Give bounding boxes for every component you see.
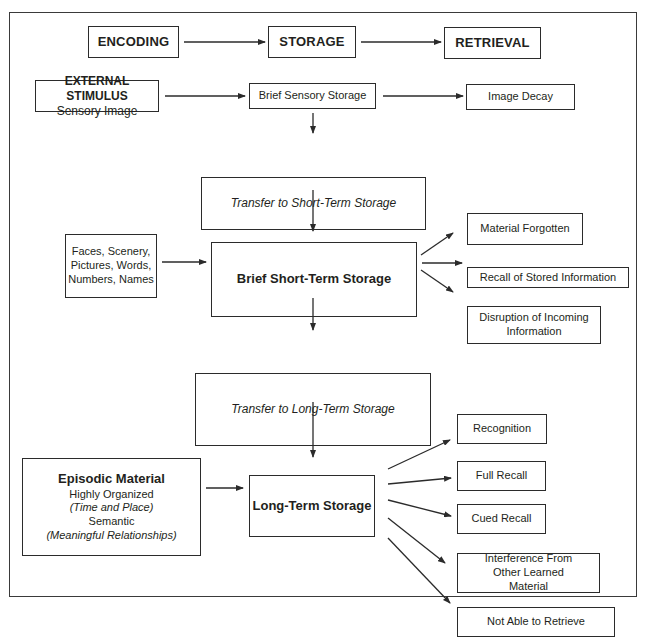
interference-box: Interference From Other Learned Material bbox=[457, 553, 600, 593]
image-decay-box: Image Decay bbox=[466, 84, 575, 110]
episodic-line-1: Highly Organized bbox=[69, 488, 153, 502]
brief-short-term-storage-box: Brief Short-Term Storage bbox=[211, 242, 417, 317]
recognition-label: Recognition bbox=[473, 422, 531, 436]
recognition-box: Recognition bbox=[457, 414, 547, 444]
cued-recall-box: Cued Recall bbox=[457, 504, 546, 534]
material-forgotten-box: Material Forgotten bbox=[467, 213, 583, 245]
episodic-line-4: (Meaningful Relationships) bbox=[46, 529, 176, 543]
retrieval-label: RETRIEVAL bbox=[455, 35, 530, 51]
brief-short-term-storage-label: Brief Short-Term Storage bbox=[237, 271, 391, 287]
recall-stored-info-label: Recall of Stored Information bbox=[480, 271, 616, 285]
transfer-long-term-box: Transfer to Long-Term Storage bbox=[195, 373, 431, 446]
external-stimulus-subtitle: Sensory Image bbox=[57, 104, 138, 119]
transfer-short-term-label: Transfer to Short-Term Storage bbox=[231, 196, 396, 211]
encoding-box: ENCODING bbox=[88, 26, 179, 58]
episodic-material-box: Episodic Material Highly Organized (Time… bbox=[22, 458, 201, 556]
external-stimulus-box: EXTERNAL STIMULUS Sensory Image bbox=[35, 80, 159, 112]
inputs-line-2: Pictures, Words, bbox=[71, 259, 152, 273]
image-decay-label: Image Decay bbox=[488, 90, 553, 104]
external-stimulus-title: EXTERNAL STIMULUS bbox=[36, 74, 158, 104]
retrieval-box: RETRIEVAL bbox=[444, 27, 541, 59]
encoding-label: ENCODING bbox=[98, 34, 170, 50]
brief-sensory-storage-box: Brief Sensory Storage bbox=[249, 83, 376, 109]
disruption-label: Disruption of Incoming Information bbox=[476, 311, 592, 339]
storage-label: STORAGE bbox=[279, 34, 344, 50]
recall-stored-info-box: Recall of Stored Information bbox=[467, 267, 629, 288]
full-recall-box: Full Recall bbox=[457, 461, 546, 491]
long-term-storage-label: Long-Term Storage bbox=[253, 498, 372, 514]
disruption-box: Disruption of Incoming Information bbox=[467, 306, 601, 344]
full-recall-label: Full Recall bbox=[476, 469, 527, 483]
long-term-storage-box: Long-Term Storage bbox=[249, 475, 375, 537]
not-able-to-retrieve-box: Not Able to Retrieve bbox=[457, 607, 615, 637]
interference-label: Interference From Other Learned Material bbox=[474, 552, 583, 593]
inputs-box: Faces, Scenery, Pictures, Words, Numbers… bbox=[65, 234, 157, 298]
storage-box: STORAGE bbox=[268, 26, 356, 58]
brief-sensory-storage-label: Brief Sensory Storage bbox=[259, 89, 367, 103]
transfer-long-term-label: Transfer to Long-Term Storage bbox=[231, 402, 394, 417]
episodic-title: Episodic Material bbox=[58, 471, 165, 487]
episodic-line-3: Semantic bbox=[89, 515, 135, 529]
cued-recall-label: Cued Recall bbox=[472, 512, 532, 526]
inputs-line-1: Faces, Scenery, bbox=[72, 245, 151, 259]
material-forgotten-label: Material Forgotten bbox=[480, 222, 569, 236]
transfer-short-term-box: Transfer to Short-Term Storage bbox=[201, 177, 426, 230]
episodic-line-2: (Time and Place) bbox=[70, 501, 154, 515]
not-able-to-retrieve-label: Not Able to Retrieve bbox=[487, 615, 585, 629]
inputs-line-3: Numbers, Names bbox=[68, 273, 154, 287]
